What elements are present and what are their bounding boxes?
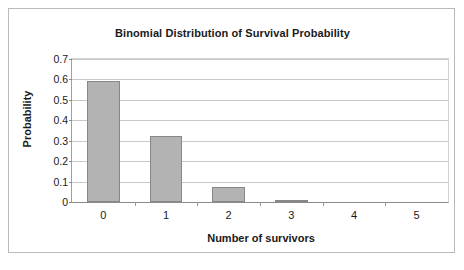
x-tick-label: 3 <box>288 209 294 221</box>
gridline <box>72 182 448 183</box>
y-tick-label: 0.3 <box>53 135 68 147</box>
gridline <box>72 120 448 121</box>
x-tick-mark <box>260 202 261 206</box>
y-tick-mark <box>69 59 72 60</box>
gridline <box>72 79 448 80</box>
gridline <box>72 161 448 162</box>
x-axis-title: Number of survivors <box>71 232 451 244</box>
chart-title: Binomial Distribution of Survival Probab… <box>9 27 456 39</box>
gridline <box>72 141 448 142</box>
x-tick-label: 0 <box>100 209 106 221</box>
y-tick-mark <box>69 161 72 162</box>
bar <box>212 187 245 202</box>
x-tick-label: 1 <box>163 209 169 221</box>
y-tick-label: 0 <box>62 196 68 208</box>
y-axis-title: Probability <box>21 79 33 159</box>
chart-figure: Binomial Distribution of Survival Probab… <box>8 8 455 253</box>
y-tick-mark <box>69 202 72 203</box>
x-tick-mark <box>385 202 386 206</box>
plot-area: 0.70.60.50.40.30.20.10 012345 <box>71 58 449 203</box>
y-tick-mark <box>69 79 72 80</box>
bar <box>275 200 308 202</box>
y-tick-label: 0.1 <box>53 176 68 188</box>
gridline <box>72 59 448 60</box>
y-tick-mark <box>69 100 72 101</box>
y-tick-mark <box>69 182 72 183</box>
x-tick-label: 5 <box>414 209 420 221</box>
y-tick-label: 0.4 <box>53 114 68 126</box>
y-tick-label: 0.7 <box>53 53 68 65</box>
x-tick-mark <box>197 202 198 206</box>
x-tick-mark <box>135 202 136 206</box>
y-tick-label: 0.5 <box>53 94 68 106</box>
x-tick-label: 2 <box>226 209 232 221</box>
x-tick-label: 4 <box>351 209 357 221</box>
bar <box>150 136 183 202</box>
gridline <box>72 100 448 101</box>
y-tick-label: 0.2 <box>53 155 68 167</box>
y-tick-mark <box>69 120 72 121</box>
y-tick-mark <box>69 141 72 142</box>
x-tick-mark <box>323 202 324 206</box>
y-tick-label: 0.6 <box>53 73 68 85</box>
bar <box>87 81 120 202</box>
